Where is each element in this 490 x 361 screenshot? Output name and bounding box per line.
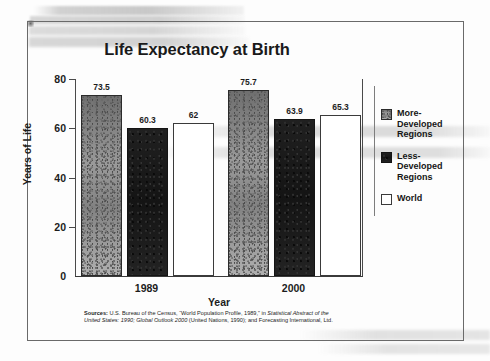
y-axis-tick-mark — [69, 128, 76, 129]
y-axis-tick-label: 0 — [26, 270, 66, 282]
y-axis-tick-mark — [69, 227, 76, 228]
plot-area: 73.560.36275.763.965.3 — [75, 79, 363, 276]
legend-label: More- Developed Regions — [397, 108, 443, 140]
legend-label: Less- Developed Regions — [397, 151, 443, 183]
y-axis-tick-mark — [69, 178, 76, 179]
bar: 73.5 — [81, 95, 122, 276]
y-axis-tick-label: 20 — [26, 221, 66, 233]
source-line2-italic: United States: 1990; Global Outlook 2000 — [84, 317, 187, 323]
legend-item: More- Developed Regions — [381, 108, 461, 140]
source-line1-plain: U.S. Bureau of the Census, “World Popula… — [108, 310, 267, 316]
scanned-chart-page: Life Expectancy at Birth 020406080 Years… — [0, 0, 490, 361]
legend-swatch — [381, 194, 392, 205]
bar-value-label: 63.9 — [286, 106, 303, 116]
legend-swatch — [381, 109, 392, 120]
y-axis-title: Years of Life — [21, 94, 33, 214]
scan-smudge-artifact — [318, 344, 490, 354]
legend-item: Less- Developed Regions — [381, 151, 461, 183]
x-axis-category-label: 2000 — [282, 282, 305, 294]
source-label: Sources: — [84, 310, 108, 316]
bar: 75.7 — [228, 90, 269, 276]
source-line1-italic: Statistical Abstract of the — [267, 310, 328, 316]
legend-divider — [374, 86, 375, 216]
x-axis-category-label: 1989 — [135, 282, 158, 294]
bar: 60.3 — [127, 128, 168, 276]
x-axis-title: Year — [75, 296, 363, 308]
source-line2-plain: (United Nations, 1990); and Forecasting … — [187, 317, 333, 323]
bar: 65.3 — [320, 115, 361, 276]
bar-value-label: 73.5 — [93, 82, 110, 92]
bar: 63.9 — [274, 119, 315, 276]
y-axis-tick-label: 80 — [26, 73, 66, 85]
source-note-line-2: United States: 1990; Global Outlook 2000… — [84, 317, 402, 324]
legend-item: World — [381, 193, 461, 205]
source-note-line-1: Sources: U.S. Bureau of the Census, “Wor… — [84, 310, 402, 317]
bar: 62 — [173, 123, 214, 276]
bar-value-label: 60.3 — [139, 115, 156, 125]
y-axis-tick-mark — [69, 79, 76, 80]
legend-label: World — [397, 193, 422, 204]
legend-swatch — [381, 152, 392, 163]
bar-value-label: 65.3 — [332, 102, 349, 112]
bar-value-label: 62 — [189, 110, 198, 120]
source-note: Sources: U.S. Bureau of the Census, “Wor… — [84, 310, 402, 324]
chart-legend: More- Developed RegionsLess- Developed R… — [381, 108, 461, 216]
x-axis-baseline — [75, 276, 363, 277]
chart-title: Life Expectancy at Birth — [27, 40, 367, 59]
bar-value-label: 75.7 — [240, 77, 257, 87]
